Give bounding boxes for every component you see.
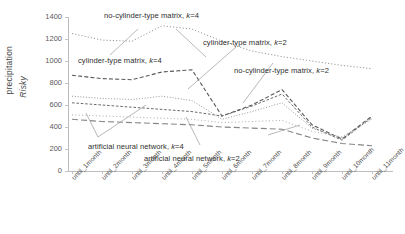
y-tick-label: 400 bbox=[32, 123, 62, 131]
y-tick-label: 200 bbox=[32, 145, 62, 153]
annotation-tail: =2 bbox=[231, 154, 240, 163]
leader-line-a1b bbox=[176, 29, 206, 57]
annotation-text: no-cylinder-type matrix, bbox=[104, 11, 186, 20]
y-axis-title-line2: Risky bbox=[18, 76, 28, 98]
annotation-tail: =4 bbox=[153, 56, 162, 65]
y-tick-label: 600 bbox=[32, 101, 62, 109]
y-tick-label: 1200 bbox=[32, 35, 62, 43]
annotation-text: no-cylinder-type matrix, bbox=[234, 66, 316, 75]
leader-line-a5b bbox=[98, 105, 146, 137]
leader-line-a6b bbox=[268, 125, 300, 135]
annotation-text: artificial neural network, bbox=[88, 142, 171, 151]
y-axis-title-group: precipitation Risky bbox=[2, 18, 36, 168]
y-tick-label: 1000 bbox=[32, 57, 62, 65]
annotation-tail: =4 bbox=[190, 11, 199, 20]
annotation-cylinder-k4: cylinder-type matrix, k=4 bbox=[78, 56, 162, 65]
annotation-tail: =4 bbox=[175, 142, 184, 151]
y-tick-label: 1400 bbox=[32, 13, 62, 21]
annotation-tail: =2 bbox=[320, 66, 329, 75]
annotation-tail: =2 bbox=[278, 38, 287, 47]
annotation-text: artificial neural network, bbox=[144, 154, 227, 163]
annotation-cylinder-k2: cylinder-type matrix, k=2 bbox=[203, 38, 287, 47]
y-axis-title-line1: precipitation bbox=[4, 46, 14, 94]
y-tick-label: 0 bbox=[32, 167, 62, 175]
annotation-text: cylinder-type matrix, bbox=[203, 38, 274, 47]
y-tick-label: 800 bbox=[32, 79, 62, 87]
annotation-no-cylinder-k2: no-cylinder-type matrix, k=2 bbox=[234, 66, 329, 75]
leader-line-a2 bbox=[188, 47, 236, 89]
leader-line-a5a bbox=[86, 113, 98, 137]
annotation-text: cylinder-type matrix, bbox=[78, 56, 149, 65]
annotation-ann-k4: artificial neural network, k=4 bbox=[88, 142, 184, 151]
y-tick-label-group: 1400 1200 1000 800 600 400 200 0 bbox=[32, 0, 62, 234]
leader-line-a1a bbox=[110, 29, 138, 55]
annotation-no-cylinder-k4: no-cylinder-type matrix, k=4 bbox=[104, 11, 199, 20]
leader-line-a6a bbox=[186, 117, 200, 145]
annotation-ann-k2: artificial neural network, k=2 bbox=[144, 154, 240, 163]
